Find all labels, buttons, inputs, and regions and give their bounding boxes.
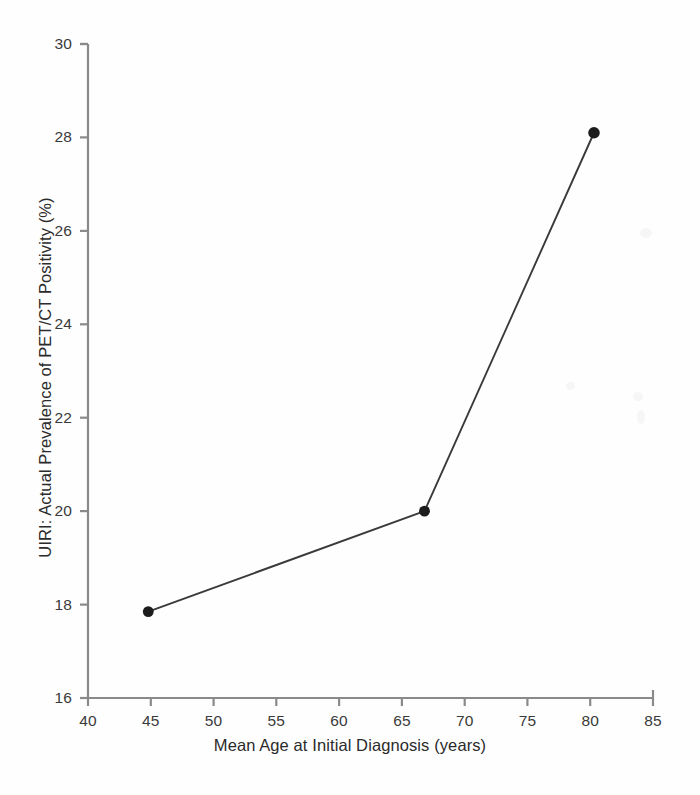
- x-axis-title: Mean Age at Initial Diagnosis (years): [0, 736, 700, 755]
- x-tick-label: 70: [456, 712, 473, 730]
- x-tick-label: 45: [142, 712, 159, 730]
- x-tick-label: 60: [330, 712, 347, 730]
- segment-2: [424, 133, 594, 511]
- data-series-line: [143, 127, 600, 617]
- y-axis-ticks: [80, 44, 88, 698]
- axes: [80, 44, 653, 698]
- plot-area: [0, 0, 700, 795]
- chart-figure: 16 18 20 22 24 26 28 30 40 45 50 55 60 6…: [0, 0, 700, 795]
- x-tick-label: 50: [205, 712, 222, 730]
- x-tick-label: 55: [268, 712, 285, 730]
- segment-1: [148, 511, 424, 611]
- x-tick-label: 85: [644, 712, 661, 730]
- x-axis-ticks: [88, 698, 653, 706]
- x-tick-label: 65: [393, 712, 410, 730]
- data-point-marker[interactable]: [588, 127, 600, 139]
- x-tick-label: 80: [581, 712, 598, 730]
- y-axis-title: UIRI: Actual Prevalence of PET/CT Positi…: [36, 78, 55, 678]
- x-tick-label: 75: [519, 712, 536, 730]
- data-point-marker[interactable]: [143, 606, 154, 617]
- data-point-marker[interactable]: [419, 506, 430, 517]
- y-tick-label: 16: [40, 689, 72, 707]
- x-tick-label: 40: [79, 712, 96, 730]
- y-tick-label: 30: [40, 35, 72, 53]
